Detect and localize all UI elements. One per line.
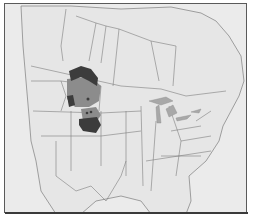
frame-shadow (5, 212, 248, 214)
map-frame (4, 3, 247, 213)
landmass (21, 6, 244, 213)
north-america-map (5, 4, 247, 213)
